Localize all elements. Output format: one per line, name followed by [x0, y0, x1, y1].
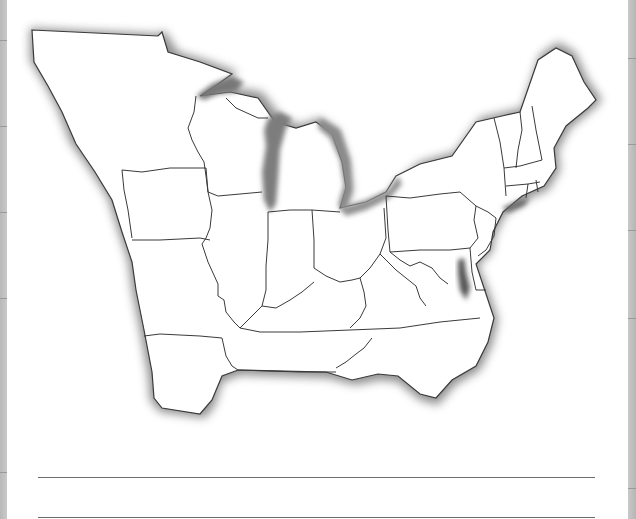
answer-line-1[interactable] [38, 477, 595, 478]
edge-tick [628, 318, 636, 319]
edge-tick [628, 230, 636, 231]
edge-tick [628, 58, 636, 59]
edge-tick [628, 488, 636, 489]
eastern-us-outline-map [0, 0, 636, 519]
answer-line-2[interactable] [38, 517, 595, 518]
page-edge-right [628, 0, 636, 519]
edge-tick [628, 144, 636, 145]
